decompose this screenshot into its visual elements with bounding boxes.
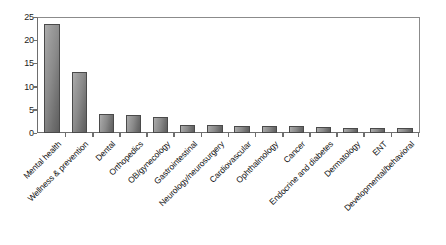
x-axis-tick-mark (146, 133, 148, 137)
bar-chart: 0510152025 Mental healthWellness & preve… (0, 0, 446, 245)
y-axis-tick: 10 (24, 81, 37, 93)
x-axis-tick-label: Dental (94, 139, 118, 163)
bar[interactable] (316, 127, 331, 133)
x-axis-tick-mark (92, 133, 94, 137)
x-axis-tick-mark (119, 133, 121, 137)
y-axis-tick: 0 (29, 127, 37, 139)
y-axis-tick-mark (33, 133, 37, 135)
bars-layer (39, 17, 419, 133)
x-axis-tick-mark (336, 133, 338, 137)
x-axis-tick-mark (201, 133, 203, 137)
x-axis-tick-mark (282, 133, 284, 137)
bar[interactable] (72, 72, 87, 133)
x-axis-tick-label: Ophthalmology (234, 139, 280, 185)
x-axis-tick-label: Endocrine and diabetes (267, 139, 335, 207)
bar-slot (289, 17, 304, 133)
y-axis-tick-mark (33, 40, 37, 42)
y-axis-tick: 5 (29, 104, 37, 116)
y-axis-tick: 15 (24, 57, 37, 69)
x-axis-tick-mark (363, 133, 365, 137)
bar[interactable] (234, 126, 249, 133)
bar-slot (370, 17, 385, 133)
x-axis-tick-mark (228, 133, 230, 137)
bar-slot (126, 17, 141, 133)
bar[interactable] (180, 125, 195, 133)
x-axis-tick-mark (418, 133, 420, 137)
bar-slot (262, 17, 277, 133)
x-axis-tick-mark (391, 133, 393, 137)
bar[interactable] (44, 24, 59, 133)
bar[interactable] (207, 125, 222, 133)
x-axis-tick-label: Gastrointestinal (152, 139, 199, 186)
bar-slot (99, 17, 114, 133)
y-axis-tick-mark (33, 63, 37, 65)
bar[interactable] (370, 128, 385, 133)
bar-slot (180, 17, 195, 133)
x-axis-tick-label: Cardiovascular (207, 139, 253, 185)
bar-slot (207, 17, 222, 133)
x-axis-tick-label: Developmental/behavioral (342, 139, 416, 213)
x-axis-tick-label: Wellness & prevention (26, 139, 91, 204)
x-axis-tick-mark (65, 133, 67, 137)
bar-slot (343, 17, 358, 133)
x-axis-tick-label: Neurology/neurosurgery (157, 139, 226, 208)
bar[interactable] (262, 126, 277, 133)
y-axis-tick: 25 (24, 11, 37, 23)
bar[interactable] (126, 115, 141, 133)
bar[interactable] (99, 114, 114, 133)
y-axis: 0510152025 (0, 10, 37, 140)
x-axis-tick-label: Orthopedics (106, 139, 144, 177)
x-axis-tick-label: Mental health (21, 139, 63, 181)
bar[interactable] (343, 128, 358, 133)
x-axis-tick-mark (173, 133, 175, 137)
x-axis-tick-mark (309, 133, 311, 137)
y-axis-tick: 20 (24, 34, 37, 46)
bar[interactable] (153, 117, 168, 133)
y-axis-tick-mark (33, 17, 37, 19)
bar-slot (153, 17, 168, 133)
bar-slot (44, 17, 59, 133)
bar[interactable] (397, 128, 412, 133)
bar-slot (72, 17, 87, 133)
x-axis-tick-mark (255, 133, 257, 137)
bar-slot (316, 17, 331, 133)
x-axis-tick-label: OB/gynecology (125, 139, 171, 185)
bar-slot (234, 17, 249, 133)
x-axis-tick-label: Cancer (282, 139, 308, 165)
bar-slot (397, 17, 412, 133)
x-axis-tick-label: Dermatology (322, 139, 362, 179)
x-axis-tick-label: ENT (370, 139, 389, 158)
bar[interactable] (289, 126, 304, 133)
y-axis-tick-mark (33, 86, 37, 88)
y-axis-tick-mark (33, 109, 37, 111)
